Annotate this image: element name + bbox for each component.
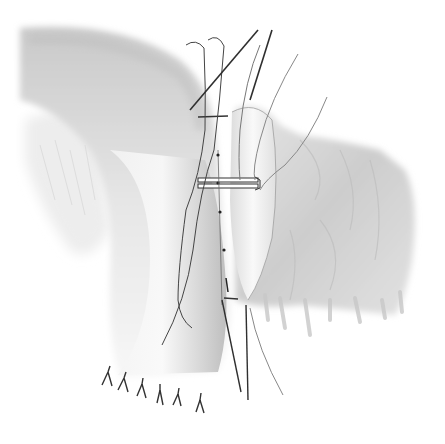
suture-knot [218,210,221,213]
needle-line [246,305,248,400]
suture-knot [216,153,219,156]
needle-line [250,30,272,100]
stay-tie-bottom [224,298,238,299]
anastomosis-clamp-bar [198,177,260,190]
interrupted-suture [173,388,181,406]
interrupted-suture [157,384,163,405]
interrupted-suture [102,366,112,386]
interrupted-suture [196,393,204,413]
illustration-canvas: Grayscale illustration of an intestinal … [0,0,445,444]
suture-knot [222,248,225,251]
needle-line [190,30,258,110]
surgical-illustration [0,0,445,444]
interrupted-suture [137,378,146,398]
stay-tie-top [198,116,228,117]
